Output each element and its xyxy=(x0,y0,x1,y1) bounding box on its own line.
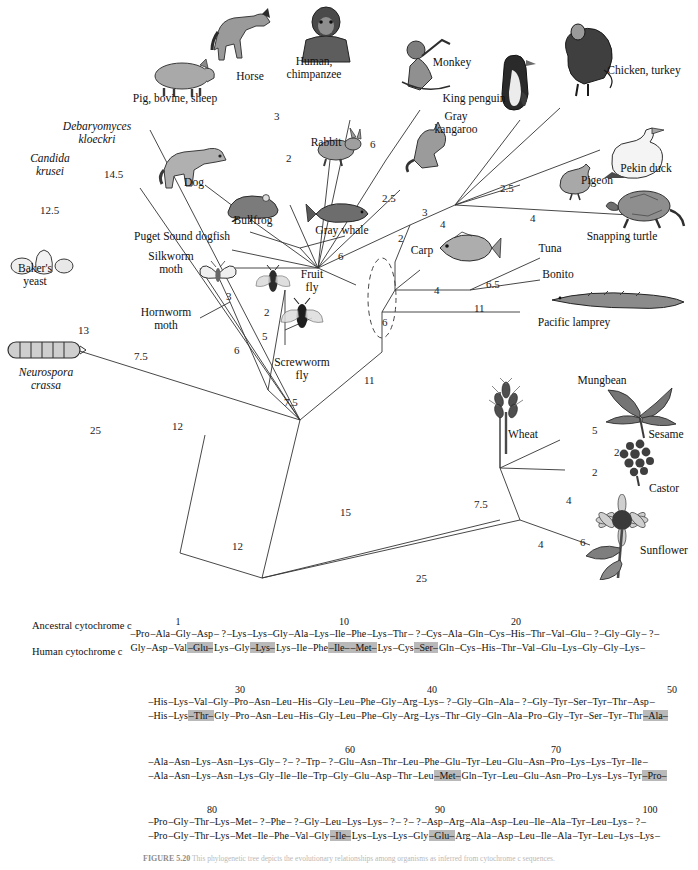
taxon-label-gray-whale: Gray whale xyxy=(304,224,380,237)
residue: –Lys xyxy=(209,816,229,827)
residue: –Asn xyxy=(250,710,272,721)
branch-length-candida: 12.5 xyxy=(40,204,59,216)
residue: –Gly xyxy=(542,710,563,721)
taxon-label-silkworm-moth: Silkworm moth xyxy=(142,250,200,275)
residue: –Ala xyxy=(552,830,572,841)
residue: –Phe xyxy=(419,756,440,767)
branch-length-tunabonito: 6.5 xyxy=(486,278,500,290)
branch-length-wheat: 7.5 xyxy=(474,498,488,510)
taxon-label-pekin-duck: Pekin duck xyxy=(610,162,682,175)
position-numbers: 11020 xyxy=(0,616,698,628)
residue: –Tyr xyxy=(566,816,586,827)
residue: –Glu xyxy=(440,756,461,767)
residue: –Lys xyxy=(233,756,253,767)
residue: – ? xyxy=(252,816,265,827)
residue: –Ala xyxy=(502,710,522,721)
human-sequence-row: –Ala–Asn–Lys–Asn–Lys–Gly–Ile–Ile–Trp–Gly… xyxy=(0,770,698,784)
residue: –Gly xyxy=(312,696,333,707)
residue: –His xyxy=(292,696,312,707)
residue: –Lys xyxy=(168,696,188,707)
residue: –Glu xyxy=(536,642,557,653)
residue: –Gly xyxy=(452,696,473,707)
residue: –Lys xyxy=(418,696,438,707)
residue: –Val xyxy=(188,696,207,707)
residue: –Gly xyxy=(527,696,548,707)
residue: –Gly xyxy=(376,696,397,707)
branch-length-hornworm: 6 xyxy=(234,344,240,356)
residue: –Glu xyxy=(334,756,355,767)
fruit-fly-icon xyxy=(252,264,294,298)
sunflower-icon xyxy=(578,494,664,580)
residue: –Asn xyxy=(523,756,545,767)
residue: –Asp xyxy=(421,816,443,827)
residue: –Gly xyxy=(168,830,189,841)
position-number: 60 xyxy=(345,744,355,755)
taxon-label-candida-krusei: Candida krusei xyxy=(14,152,86,177)
taxon-label-mungbean: Mungbean xyxy=(566,374,638,387)
residue: –Arg xyxy=(397,696,418,707)
residue: – ? xyxy=(395,816,408,827)
residue: –Thr xyxy=(377,756,397,767)
residue: –Phe xyxy=(346,628,367,639)
residue: – ? xyxy=(628,816,641,827)
residue: Lys xyxy=(377,642,392,653)
residue: –Pro xyxy=(561,770,581,781)
residue: –Val xyxy=(289,830,308,841)
taxon-label-pig-bovine-sheep: Pig, bovine, sheep xyxy=(116,92,234,105)
residue: –Lys xyxy=(387,830,407,841)
taxon-label-puget-sound-dogfish: Puget Sound dogfish xyxy=(124,230,240,243)
residue-highlighted: –Glu– xyxy=(429,830,455,841)
residue: –Thr xyxy=(189,816,209,827)
branch-length-debaryomyces: 14.5 xyxy=(104,168,123,180)
taxon-label-dog: Dog xyxy=(172,176,216,189)
residue: –Cys xyxy=(421,628,443,639)
residue: –Leu xyxy=(507,816,529,827)
carp-icon xyxy=(434,230,502,266)
residue: –Ile xyxy=(626,756,643,767)
branch-length-vertebrate: 6 xyxy=(382,316,388,328)
residue: –Lys xyxy=(209,830,229,841)
residue: –Trp xyxy=(308,770,328,781)
sequence-alignment: Ancestral cytochrome c Human cytochrome … xyxy=(0,612,698,852)
residue-highlighted: –Glu– xyxy=(187,642,213,653)
silkworm-moth-icon xyxy=(196,258,240,288)
taxon-label-snapping-turtle: Snapping turtle xyxy=(570,230,674,243)
residue: –Met xyxy=(230,816,252,827)
residue: –Ala xyxy=(471,830,491,841)
residue: –Gly xyxy=(267,628,288,639)
residue: – ? xyxy=(586,628,599,639)
taxon-label-gray-kangaroo: Gray kangaroo xyxy=(424,110,488,135)
residue: –Glu xyxy=(349,770,370,781)
taxon-label-neurospora-crassa: Neurospora crassa xyxy=(6,366,86,391)
residue: –Thr xyxy=(496,642,516,653)
residue: Lys xyxy=(275,642,290,653)
human-sequence-row: Gly–Asp–Val–Glu–Lys–Gly–Lys–Lys–Ile–Phe–… xyxy=(0,642,698,656)
residue: –Ala xyxy=(494,696,514,707)
residue: –Gly xyxy=(168,816,189,827)
residue: –Thr xyxy=(607,696,627,707)
taxon-label-wheat: Wheat xyxy=(500,428,546,441)
branch-length-fruitfly: 2 xyxy=(264,306,270,318)
residue: –Tyr xyxy=(563,710,583,721)
position-number: 1 xyxy=(176,616,181,627)
residue: –Lys xyxy=(367,628,387,639)
residue: –Leu xyxy=(497,770,519,781)
residue: –Leu xyxy=(412,770,434,781)
residue-highlighted: –Ile– xyxy=(330,830,352,841)
cytochrome-c-phylogeny-figure: Pig, bovine, sheep Horse Human, chimpanz… xyxy=(0,0,698,870)
screwworm-fly-icon xyxy=(278,296,326,334)
residue: – ? xyxy=(408,628,421,639)
figure-caption: FIGURE 5.20 This phylogenetic tree depic… xyxy=(0,852,698,870)
residue: –Lys xyxy=(191,756,211,767)
residue: –His xyxy=(476,642,496,653)
residue: –Ala xyxy=(545,816,565,827)
human-sequence-row: –His–Lys–Thr–Gly–Pro–Asn–Leu–His–Gly–Leu… xyxy=(0,710,698,724)
residue: –Thr xyxy=(525,628,545,639)
branch-length-neurospora: 25 xyxy=(90,424,101,436)
residue: –Gly xyxy=(377,710,398,721)
residue: –Lys xyxy=(634,830,654,841)
residue: –Leu xyxy=(480,756,502,767)
residue: –Lys xyxy=(614,830,634,841)
residue: –Pro xyxy=(230,710,250,721)
residue: – xyxy=(649,696,655,707)
